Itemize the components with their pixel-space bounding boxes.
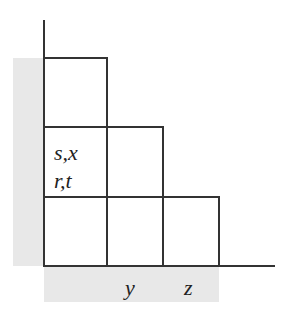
- cell-col2-row1: [107, 197, 163, 266]
- left-shaded-band: [13, 58, 44, 266]
- cell-label-lower: r,t: [54, 168, 73, 193]
- cell-col1-row3: [44, 58, 107, 127]
- cell-col2-row2: [107, 127, 163, 197]
- axis-label-z: z: [183, 275, 193, 300]
- cell-col3-row1: [163, 197, 219, 266]
- cell-col1-row1: [44, 197, 107, 266]
- cell-label-upper: s,x: [54, 140, 78, 165]
- staircase-diagram: s,x r,t y z: [0, 0, 293, 313]
- axis-label-y: y: [123, 275, 135, 300]
